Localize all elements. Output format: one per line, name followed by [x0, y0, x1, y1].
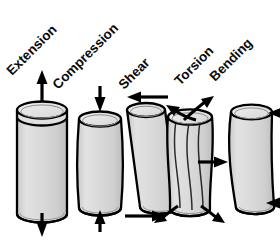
compression-cylinder — [77, 112, 123, 216]
bending-cylinder — [229, 105, 274, 214]
stress-modes-diagram: Extension Compression — [0, 0, 280, 241]
diagram-canvas: Extension Compression — [0, 0, 280, 241]
extension-cylinder — [17, 102, 67, 223]
